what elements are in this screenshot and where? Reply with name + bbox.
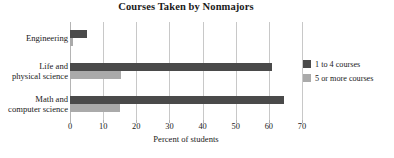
bar-chart: Courses Taken by Nonmajors EngineeringLi…	[0, 0, 394, 158]
legend-label: 5 or more courses	[315, 74, 373, 83]
x-tick-label-20: 20	[124, 122, 148, 131]
legend-swatch-icon	[303, 60, 311, 68]
legend-item[interactable]: 5 or more courses	[303, 71, 393, 85]
bar	[70, 71, 121, 79]
category-label-line: Math and	[0, 94, 68, 104]
category-label: Math andcomputer science	[0, 94, 68, 114]
category-label-line: computer science	[0, 104, 68, 114]
category-label: Life andphysical science	[0, 61, 68, 81]
bar	[70, 30, 87, 38]
x-axis-title: Percent of students	[70, 134, 302, 144]
category-label: Engineering	[0, 33, 68, 43]
bar-group	[70, 96, 302, 112]
x-tick-label-30: 30	[157, 122, 181, 131]
bar	[70, 104, 120, 112]
bar	[70, 63, 272, 71]
legend: 1 to 4 courses5 or more courses	[303, 57, 393, 85]
category-label-line: Life and	[0, 61, 68, 71]
x-tick-label-10: 10	[91, 122, 115, 131]
plot-area	[70, 22, 302, 120]
x-tick-label-70: 70	[290, 122, 314, 131]
x-tick-label-40: 40	[191, 122, 215, 131]
x-tick-label-60: 60	[257, 122, 281, 131]
category-axis-labels: EngineeringLife andphysical scienceMath …	[0, 22, 68, 120]
legend-item[interactable]: 1 to 4 courses	[303, 57, 393, 71]
bar	[70, 96, 284, 104]
bar	[70, 38, 73, 46]
x-tick-label-0: 0	[58, 122, 82, 131]
category-label-line: Engineering	[0, 33, 68, 43]
legend-label: 1 to 4 courses	[315, 60, 360, 69]
legend-swatch-icon	[303, 74, 311, 82]
bar-group	[70, 63, 302, 79]
bar-group	[70, 30, 302, 46]
x-tick-label-50: 50	[224, 122, 248, 131]
x-axis-tick-labels: 010203040506070	[70, 122, 302, 133]
category-label-line: physical science	[0, 71, 68, 81]
chart-title: Courses Taken by Nonmajors	[70, 1, 302, 12]
